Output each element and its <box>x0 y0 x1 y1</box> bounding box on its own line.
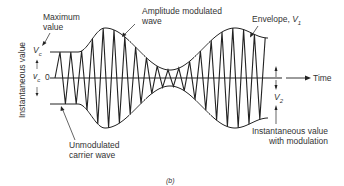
am-wave-label: Amplitude modulated wave <box>142 6 222 26</box>
envelope-label: Envelope, V1 <box>252 14 301 28</box>
v2-arrow-mid-head <box>275 85 278 90</box>
maximum-value-pointer-head <box>42 41 47 46</box>
vc-arrow-down-head <box>36 93 39 97</box>
vc-inst-label: vc <box>33 71 40 85</box>
instantaneous-modulation-label: Instantaneous value with modulation <box>244 126 328 146</box>
am-wave-pointer <box>124 24 135 35</box>
figure-caption: (b) <box>166 176 175 186</box>
v2-arrow-bottom-head <box>275 105 278 110</box>
unmod-line1: Unmodulated <box>69 140 120 150</box>
maximum-value-label: Maximum value <box>43 12 80 32</box>
am-wave-line1: Amplitude modulated <box>142 6 222 16</box>
time-label: Time <box>313 73 332 83</box>
envelope-upper <box>78 28 268 70</box>
vc-max-label: Vc <box>33 45 42 59</box>
inst-mod-line2: with modulation <box>244 136 328 146</box>
am-wave-line2: wave <box>142 16 222 26</box>
v2-arrow-top-head <box>275 66 278 71</box>
zero-label: 0 <box>45 72 50 82</box>
vc-arrow-up-head <box>36 60 39 64</box>
unmod-carrier-pointer <box>62 108 75 140</box>
unmod-carrier-pointer-head <box>61 106 65 111</box>
y-axis-label: Instantaneous value <box>17 42 27 118</box>
unmodulated-carrier-label: Unmodulated carrier wave <box>69 140 120 160</box>
time-arrow-head <box>305 76 311 81</box>
maximum-value-line1: Maximum <box>43 12 80 22</box>
inst-mod-line1: Instantaneous value <box>244 126 328 136</box>
maximum-value-line2: value <box>43 22 80 32</box>
v2-label: V2 <box>274 92 283 106</box>
unmod-line2: carrier wave <box>69 150 120 160</box>
